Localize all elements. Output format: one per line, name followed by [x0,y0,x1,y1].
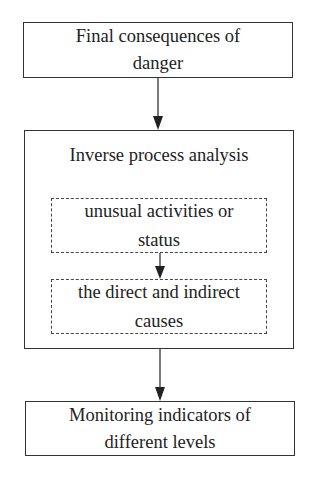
arrow-final-to-inverse [153,77,163,130]
node-final-consequences: Final consequences of danger [23,22,293,78]
node-monitoring-indicators-line1: Monitoring indicators of [69,402,251,429]
node-unusual-activities-line1: unusual activities or [85,197,234,226]
node-direct-indirect-causes-line1: the direct and indirect [78,278,240,307]
arrow-inverse-to-monitoring [155,348,165,401]
node-unusual-activities-line2: status [85,226,234,255]
node-final-consequences-line2: danger [76,50,240,77]
node-direct-indirect-causes-line2: causes [78,307,240,336]
inverse-process-analysis-title: Inverse process analysis [25,145,293,166]
node-monitoring-indicators-line2: different levels [69,429,251,456]
node-monitoring-indicators: Monitoring indicators of different level… [25,401,295,456]
node-direct-indirect-causes: the direct and indirect causes [51,279,267,334]
node-final-consequences-line1: Final consequences of [76,23,240,50]
node-unusual-activities: unusual activities or status [51,198,267,253]
